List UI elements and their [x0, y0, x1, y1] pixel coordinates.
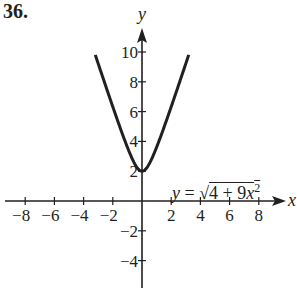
eq-equals: =	[180, 183, 199, 203]
y-tick-label: −2	[120, 222, 138, 241]
eq-lhs: y	[172, 183, 180, 203]
axes: xy	[5, 4, 296, 288]
y-tick-label: 10	[121, 43, 138, 62]
equation-label: y = √4 + 9x2	[172, 181, 260, 204]
x-tick-label: 2	[167, 206, 176, 225]
y-tick-label: 6	[130, 103, 139, 122]
x-tick-label: 8	[255, 206, 264, 225]
graph: xy −8−6−4−22468−4−2246810	[0, 0, 297, 293]
x-tick-label: −4	[71, 206, 90, 225]
x-tick-label: 4	[196, 206, 205, 225]
ticks: −8−6−4−22468−4−2246810	[12, 43, 263, 271]
x-tick-label: −8	[12, 206, 30, 225]
y-tick-label: 4	[130, 132, 139, 151]
x-axis-label: x	[287, 190, 296, 210]
x-tick-label: 6	[225, 206, 234, 225]
y-tick-label: 8	[130, 73, 139, 92]
x-tick-label: −2	[100, 206, 118, 225]
radicand: 4 + 9x2	[209, 183, 260, 203]
x-tick-label: −6	[41, 206, 59, 225]
radical-sign: √	[199, 183, 209, 203]
y-axis-label: y	[136, 4, 146, 24]
y-tick-label: −4	[120, 252, 139, 271]
